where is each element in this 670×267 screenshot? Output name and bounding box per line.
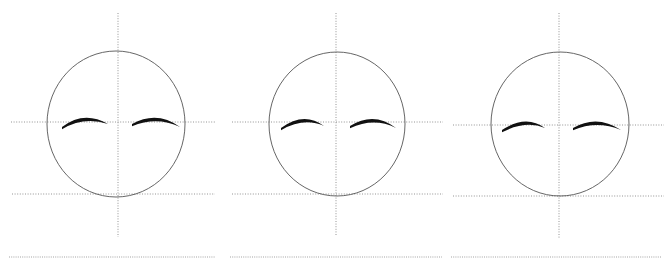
face-panel-1: [0, 0, 224, 267]
panel-1-drawing: [0, 0, 224, 267]
right-eyebrow-arc: [573, 121, 621, 130]
figure-canvas: [0, 0, 670, 267]
panel-2-drawing: [224, 0, 448, 267]
right-eyebrow-arc: [350, 119, 396, 128]
left-eyebrow-arc: [281, 119, 324, 130]
left-eyebrow-arc: [502, 121, 545, 132]
panel-3-drawing: [446, 0, 670, 267]
left-eyebrow-arc: [62, 118, 108, 130]
face-panel-3: [446, 0, 670, 267]
face-panel-2: [224, 0, 448, 267]
